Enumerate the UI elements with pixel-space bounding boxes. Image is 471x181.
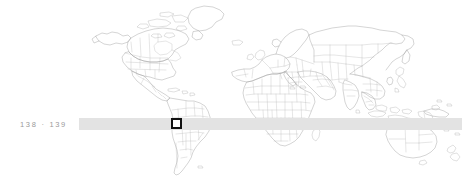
region-north-america xyxy=(92,12,195,101)
world-map xyxy=(0,0,471,181)
region-europe xyxy=(232,29,322,89)
page-folio: 138 · 139 xyxy=(20,118,67,130)
highlight-band xyxy=(79,118,462,130)
location-marker[interactable] xyxy=(171,118,182,129)
region-asia xyxy=(298,26,414,113)
map-page: 138 · 139 xyxy=(0,0,471,181)
region-greenland xyxy=(188,6,224,40)
region-africa xyxy=(243,71,320,146)
region-south-america xyxy=(167,98,211,175)
region-australia xyxy=(386,100,460,165)
